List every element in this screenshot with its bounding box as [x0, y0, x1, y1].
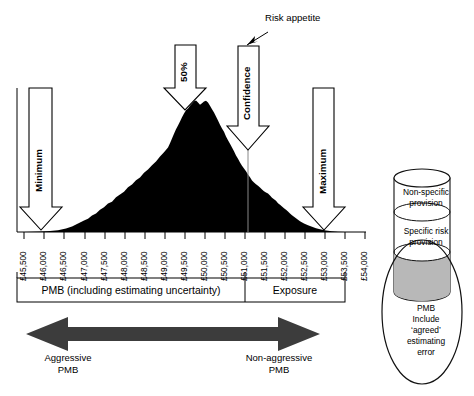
tick-label: £53,500 [341, 241, 349, 281]
pmb-ellipse-line5: error [386, 347, 466, 358]
distribution-area [24, 100, 345, 232]
pmb-ellipse-label: PMB Include ‘agreed’ estimating error [386, 303, 466, 358]
cylinder-top-rim [394, 169, 450, 187]
tick-label: £52,500 [301, 241, 309, 281]
non-specific-provision-line2: provision [384, 198, 468, 209]
tick-label: £45,500 [20, 241, 28, 281]
pmb-band-label: PMB (including estimating uncertainty) [17, 284, 245, 296]
specific-risk-provision-line1: Specific risk [384, 226, 468, 237]
tick-label: £46,000 [40, 241, 48, 281]
aggressive-pmb-label: Aggressive PMB [14, 352, 122, 376]
minimum-arrow-label: Minimum [34, 112, 44, 192]
non-aggressive-pmb-line1: Non-aggressive [212, 352, 346, 364]
tick-label: £52,000 [281, 241, 289, 281]
specific-risk-provision-label: Specific risk provision [384, 226, 468, 248]
tick-label: £47,000 [81, 241, 89, 281]
specific-risk-provision-line2: provision [384, 237, 468, 248]
tick-label: £49,000 [161, 241, 169, 281]
tick-label: £51,500 [261, 241, 269, 281]
tick-label: £49,500 [181, 241, 189, 281]
tick-label: £54,000 [361, 241, 369, 281]
tick-label: £50,000 [201, 241, 209, 281]
x-axis-tick-labels: £45,500 £46,000 £46,500 £47,000 £47,500 … [0, 241, 380, 283]
tick-label: £46,500 [60, 241, 68, 281]
x-axis-ticks [24, 232, 365, 239]
non-aggressive-pmb-label: Non-aggressive PMB [212, 352, 346, 376]
exposure-band-label: Exposure [245, 284, 345, 296]
pmb-ellipse-line1: PMB [386, 303, 466, 314]
tick-label: £51,000 [241, 241, 249, 281]
tick-label: £47,500 [101, 241, 109, 281]
tick-label: £48,500 [141, 241, 149, 281]
tick-label: £48,000 [121, 241, 129, 281]
figure-root: £45,500 £46,000 £46,500 £47,000 £47,500 … [0, 0, 474, 396]
non-aggressive-pmb-line2: PMB [212, 364, 346, 376]
pmb-ellipse-line3: ‘agreed’ [386, 325, 466, 336]
pmb-ellipse-line4: estimating [386, 336, 466, 347]
tick-label: £53,000 [321, 241, 329, 281]
maximum-arrow-label: Maximum [318, 112, 328, 194]
pmb-ellipse-line2: Include [386, 314, 466, 325]
aggressive-pmb-line1: Aggressive [14, 352, 122, 364]
non-specific-provision-label: Non-specific provision [384, 187, 468, 209]
risk-appetite-pointer [247, 32, 268, 45]
aggressiveness-spectrum-arrow [0, 312, 380, 352]
median-arrow-label: 50% [179, 48, 189, 82]
aggressive-pmb-line2: PMB [14, 364, 122, 376]
risk-appetite-label: Risk appetite [265, 12, 320, 23]
tick-label: £50,500 [221, 241, 229, 281]
confidence-arrow-label: Confidence [242, 58, 252, 120]
non-specific-provision-line1: Non-specific [384, 187, 468, 198]
